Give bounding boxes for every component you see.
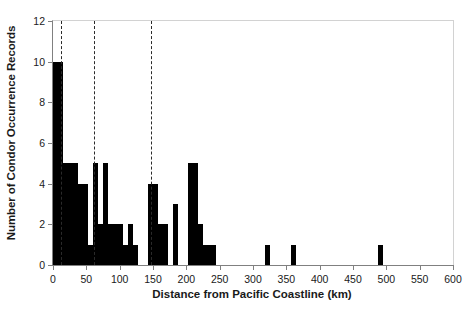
x-axis-tick (420, 265, 421, 270)
reference-line (94, 21, 95, 265)
histogram-bar (133, 245, 138, 265)
histogram-figure: Number of Condor Occurrence Records 0246… (0, 0, 464, 316)
histogram-bar (188, 163, 198, 265)
x-axis-tick-label: 250 (211, 273, 229, 285)
x-axis-tick (186, 265, 187, 270)
histogram-bar (108, 224, 123, 265)
x-axis-tick (153, 265, 154, 270)
x-axis-tick-label: 450 (344, 273, 362, 285)
y-axis-title: Number of Condor Occurrence Records (2, 0, 20, 266)
histogram-bar (148, 184, 158, 265)
x-axis-tick (53, 265, 54, 270)
x-axis-tick-label: 150 (144, 273, 162, 285)
y-axis-tick-label: 12 (33, 15, 45, 27)
y-axis-tick-label: 0 (39, 259, 45, 271)
x-axis-tick (320, 265, 321, 270)
x-axis-tick-label: 100 (111, 273, 129, 285)
histogram-bar (63, 163, 78, 265)
reference-line (61, 21, 62, 265)
x-axis-tick-label: 500 (378, 273, 396, 285)
x-axis-tick-label: 550 (411, 273, 429, 285)
y-axis-title-text: Number of Condor Occurrence Records (5, 26, 17, 240)
x-axis-tick (253, 265, 254, 270)
reference-line (151, 21, 152, 265)
x-axis-tick-label: 50 (80, 273, 92, 285)
x-axis-tick-label: 350 (278, 273, 296, 285)
x-axis-tick-label: 600 (444, 273, 462, 285)
x-axis-tick (86, 265, 87, 270)
histogram-bar (378, 245, 383, 265)
x-axis-tick-label: 200 (178, 273, 196, 285)
y-axis-tick-label: 10 (33, 56, 45, 68)
y-axis-tick-label: 8 (39, 96, 45, 108)
plot-area: 0246810120501001502002503003504004505005… (52, 20, 454, 266)
y-axis-tick (48, 21, 53, 22)
x-axis-tick-label: 400 (311, 273, 329, 285)
histogram-bar (291, 245, 296, 265)
x-axis-tick (353, 265, 354, 270)
x-axis-tick (286, 265, 287, 270)
y-axis-tick-label: 2 (39, 218, 45, 230)
histogram-bar (265, 245, 270, 265)
x-axis-tick (220, 265, 221, 270)
y-axis-tick-label: 6 (39, 137, 45, 149)
y-axis-tick-label: 4 (39, 178, 45, 190)
x-axis-tick-label: 0 (50, 273, 56, 285)
x-axis-tick (386, 265, 387, 270)
histogram-bar (203, 245, 216, 265)
x-axis-title: Distance from Pacific Coastline (km) (52, 288, 452, 300)
x-axis-tick-label: 300 (244, 273, 262, 285)
x-axis-tick (453, 265, 454, 270)
histogram-bar (78, 184, 88, 265)
histogram-bar (173, 204, 178, 265)
histogram-bar (158, 224, 168, 265)
x-axis-tick (120, 265, 121, 270)
